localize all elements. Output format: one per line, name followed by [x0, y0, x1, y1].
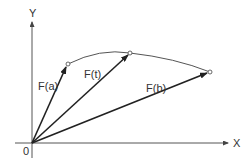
- y-axis-label: Y: [29, 7, 37, 19]
- vector-f-t: [32, 55, 128, 143]
- vectors: [32, 55, 207, 143]
- vector-function-diagram: Y X 0 F(a) F(t) F(b): [0, 0, 250, 165]
- vector-label-f-a: F(a): [38, 80, 58, 92]
- vector-label-f-b: F(b): [146, 82, 166, 94]
- x-axis-label: X: [233, 137, 241, 149]
- vector-label-f-t: F(t): [84, 68, 101, 80]
- origin-label: 0: [23, 145, 29, 157]
- endpoint-t: [128, 51, 132, 55]
- endpoint-b: [208, 70, 212, 74]
- endpoint-a: [66, 62, 70, 66]
